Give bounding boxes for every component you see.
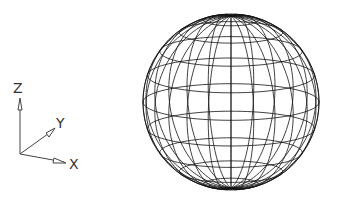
z-axis-label: Z — [13, 80, 23, 96]
diagram-canvas: Z Y X — [0, 0, 339, 206]
y-axis-label: Y — [55, 115, 65, 131]
wireframe-sphere — [143, 14, 319, 190]
x-arrow-icon — [53, 158, 66, 163]
x-axis-label: X — [69, 156, 79, 172]
y-arrow-icon — [46, 128, 55, 137]
z-arrow-icon — [18, 98, 22, 110]
